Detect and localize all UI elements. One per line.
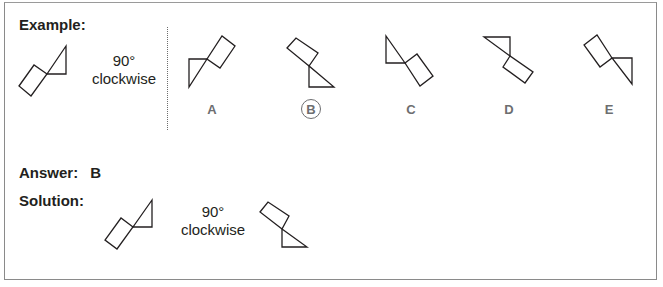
option-d-figure[interactable] <box>484 37 533 83</box>
example-triangle <box>47 46 66 74</box>
option-a-figure[interactable] <box>189 36 235 87</box>
example-figure <box>19 46 66 96</box>
option-e-figure[interactable] <box>584 35 632 84</box>
option-d-label[interactable]: D <box>497 102 521 117</box>
solution-rotated-figure <box>260 202 307 247</box>
figures-layer <box>0 0 663 287</box>
answer-label: Answer: <box>19 164 78 181</box>
solution-original-figure <box>105 200 152 249</box>
option-b-figure[interactable] <box>287 38 334 87</box>
answer-row: Answer: B <box>19 164 101 181</box>
solution-rotation-direction: clockwise <box>173 221 253 239</box>
example-rectangle <box>19 65 47 96</box>
solution-rotation-text: 90° clockwise <box>173 203 253 239</box>
answer-value: B <box>90 164 101 181</box>
option-e-label[interactable]: E <box>597 102 621 117</box>
option-b-label[interactable]: B <box>299 102 323 117</box>
option-a-label[interactable]: A <box>200 102 224 117</box>
option-c-figure[interactable] <box>386 36 433 86</box>
option-c-label[interactable]: C <box>399 102 423 117</box>
solution-label: Solution: <box>19 192 84 209</box>
solution-rotation-angle: 90° <box>173 203 253 221</box>
